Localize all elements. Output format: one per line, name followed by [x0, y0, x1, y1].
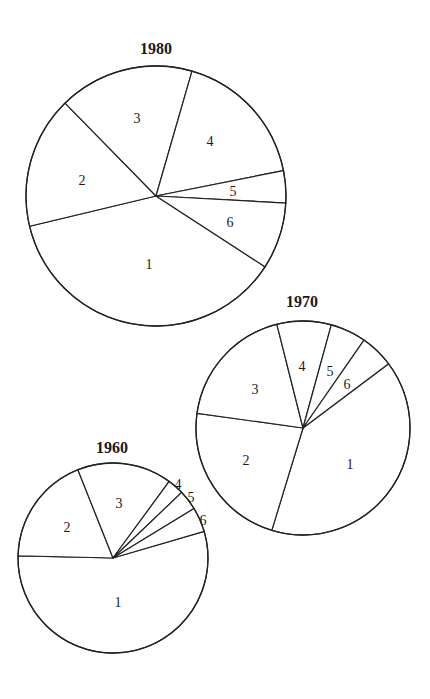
slice-label: 6: [344, 377, 351, 392]
pie-slices: [196, 321, 410, 535]
slice-label: 3: [116, 496, 123, 511]
slice-label: 2: [79, 173, 86, 188]
slice-label: 3: [252, 382, 259, 397]
slice-label: 1: [347, 457, 354, 472]
pie-charts-figure: 1980 1 2 3 4 5 6 1970 1 2 3 4 5 6 1960 1: [0, 0, 430, 699]
chart-title-1980: 1980: [140, 40, 172, 57]
pie-slices: [26, 66, 286, 326]
slice-label: 4: [207, 134, 214, 149]
slice-label: 5: [188, 490, 195, 505]
slice-label: 2: [243, 453, 250, 468]
pie-chart-1970: 1970 1 2 3 4 5 6: [196, 293, 410, 535]
chart-title-1970: 1970: [286, 293, 318, 310]
pie-chart-1960: 1960 1 2 3 4 5 6: [18, 439, 208, 653]
slice-label: 4: [175, 477, 182, 492]
slice-label: 1: [146, 257, 153, 272]
slice-label: 6: [200, 513, 207, 528]
slice-label: 2: [64, 520, 71, 535]
slice-label: 1: [115, 595, 122, 610]
slice-label: 3: [134, 111, 141, 126]
slice-label: 6: [227, 215, 234, 230]
pie-chart-1980: 1980 1 2 3 4 5 6: [26, 40, 286, 326]
slice-label: 5: [230, 184, 237, 199]
slice-label: 5: [327, 364, 334, 379]
chart-title-1960: 1960: [96, 439, 128, 456]
slice-label: 4: [299, 359, 306, 374]
